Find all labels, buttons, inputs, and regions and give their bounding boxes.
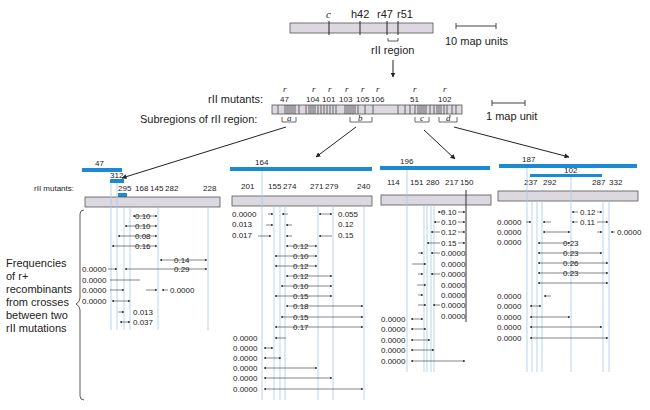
svg-text:0.14: 0.14 [174, 256, 190, 265]
subregions-label: Subregions of rII region: [140, 113, 257, 125]
svg-text:r: r [376, 84, 380, 94]
panel-subregion-b: 164 201 155 274 271 279 240 [230, 158, 372, 400]
svg-text:0.0000: 0.0000 [233, 354, 258, 363]
svg-text:168: 168 [135, 184, 149, 193]
svg-text:r: r [328, 84, 332, 94]
svg-text:0.037: 0.037 [133, 318, 154, 327]
svg-text:104: 104 [306, 95, 320, 104]
svg-text:r: r [413, 84, 417, 94]
svg-text:47: 47 [95, 159, 104, 168]
svg-text:287: 287 [592, 178, 606, 187]
svg-text:0.23: 0.23 [563, 269, 579, 278]
svg-text:282: 282 [165, 184, 179, 193]
svg-text:0.11: 0.11 [580, 218, 596, 227]
svg-text:0.0000: 0.0000 [233, 374, 258, 383]
marker-c: c [326, 8, 331, 20]
subregion-c: c [420, 113, 424, 123]
svg-text:280: 280 [426, 178, 440, 187]
svg-text:0.0000: 0.0000 [497, 228, 522, 237]
svg-text:187: 187 [522, 155, 536, 164]
svg-text:rII mutations: rII mutations [6, 322, 67, 334]
svg-text:271: 271 [310, 182, 324, 191]
svg-text:r: r [345, 84, 349, 94]
svg-text:47: 47 [280, 95, 289, 104]
svg-text:0.0000: 0.0000 [233, 364, 258, 373]
t4-chromosome-map: c h42 r47 r51 rII region 10 map units [290, 8, 508, 77]
svg-text:279: 279 [325, 182, 339, 191]
deletion-196 [380, 166, 490, 170]
svg-text:102: 102 [564, 166, 578, 175]
svg-text:0.013: 0.013 [232, 220, 253, 229]
svg-text:145: 145 [150, 184, 164, 193]
svg-text:0.0000: 0.0000 [441, 270, 466, 279]
rII-fine-structure-diagram: c h42 r47 r51 rII region 10 map units rI… [0, 0, 650, 410]
svg-text:0.0000: 0.0000 [82, 297, 107, 306]
svg-text:0.12: 0.12 [293, 242, 309, 251]
subregion-b: b [358, 113, 363, 123]
svg-text:r: r [361, 84, 365, 94]
svg-text:0.0000: 0.0000 [233, 334, 258, 343]
rII-mutants-label-a: rII mutants: [34, 184, 74, 193]
svg-text:103: 103 [339, 95, 353, 104]
svg-text:0.0000: 0.0000 [381, 346, 406, 355]
svg-text:155: 155 [268, 182, 282, 191]
svg-text:101: 101 [322, 95, 336, 104]
svg-text:0.0000: 0.0000 [381, 336, 406, 345]
deletion-164 [230, 167, 372, 171]
svg-text:0.12: 0.12 [580, 208, 596, 217]
svg-text:0.12: 0.12 [293, 272, 309, 281]
svg-text:r: r [283, 84, 287, 94]
svg-text:0.10: 0.10 [293, 282, 309, 291]
svg-text:0.0000: 0.0000 [441, 249, 466, 258]
svg-text:0.16: 0.16 [135, 242, 151, 251]
svg-text:0.0000: 0.0000 [497, 302, 522, 311]
svg-text:51: 51 [410, 95, 419, 104]
svg-text:0.0000: 0.0000 [232, 210, 257, 219]
svg-text:295: 295 [118, 184, 132, 193]
svg-text:0.0000: 0.0000 [233, 385, 258, 394]
svg-text:151: 151 [410, 178, 424, 187]
svg-text:0.0000: 0.0000 [497, 334, 522, 343]
svg-text:between two: between two [6, 309, 68, 321]
svg-text:237: 237 [524, 178, 538, 187]
svg-text:0.0000: 0.0000 [381, 325, 406, 334]
svg-text:0.0000: 0.0000 [441, 301, 466, 310]
svg-text:of r+: of r+ [6, 270, 28, 282]
svg-text:0.26: 0.26 [563, 259, 579, 268]
svg-text:0.0000: 0.0000 [497, 292, 522, 301]
svg-text:0.0000: 0.0000 [381, 315, 406, 324]
rII-region-label: rII region [371, 44, 414, 56]
svg-text:292: 292 [543, 178, 557, 187]
svg-text:from crosses: from crosses [6, 296, 69, 308]
panel-subregion-c: 196 114 151 280 217 150 0.10 0 [380, 157, 491, 372]
svg-text:0.10: 0.10 [135, 212, 151, 221]
svg-text:274: 274 [283, 182, 297, 191]
rII-scale-label: 1 map unit [486, 110, 537, 122]
svg-text:196: 196 [400, 157, 414, 166]
svg-text:0.23: 0.23 [563, 239, 579, 248]
svg-text:164: 164 [255, 158, 269, 167]
svg-text:0.0000: 0.0000 [617, 228, 642, 237]
svg-text:0.12: 0.12 [293, 262, 309, 271]
svg-text:0.15: 0.15 [293, 313, 309, 322]
marker-r51: r51 [397, 8, 413, 20]
svg-text:0.15: 0.15 [293, 292, 309, 301]
rII-mutants-label: rII mutants: [208, 93, 263, 105]
svg-text:0.0000: 0.0000 [497, 238, 522, 247]
panel-subregion-d: 187 102 237 292 287 332 0.12 0.11 0.23 [497, 155, 642, 372]
svg-text:105: 105 [356, 95, 370, 104]
svg-text:0.12: 0.12 [338, 220, 354, 229]
svg-text:0.0000: 0.0000 [441, 281, 466, 290]
svg-text:312: 312 [110, 171, 124, 180]
svg-text:150: 150 [460, 178, 474, 187]
svg-text:0.17: 0.17 [293, 323, 309, 332]
svg-text:106: 106 [371, 95, 385, 104]
marker-r47: r47 [377, 8, 393, 20]
svg-text:0.10: 0.10 [293, 252, 309, 261]
svg-text:0.0000: 0.0000 [170, 286, 195, 295]
svg-text:0.0000: 0.0000 [441, 260, 466, 269]
svg-text:0.08: 0.08 [135, 232, 151, 241]
svg-text:0.013: 0.013 [133, 308, 154, 317]
top-scale-label: 10 map units [445, 35, 508, 47]
svg-text:0.29: 0.29 [174, 265, 190, 274]
